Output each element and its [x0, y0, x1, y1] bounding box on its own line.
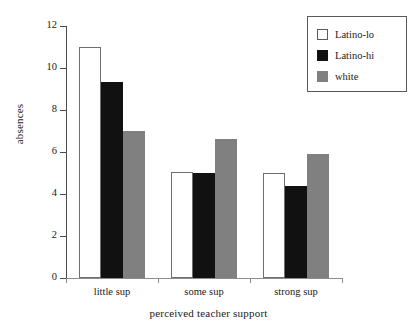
bar-chart-figure: absences 024681012 little supsome supstr…: [0, 0, 417, 331]
x-axis-tick: [66, 278, 67, 283]
x-axis-category-label: little sup: [94, 286, 130, 297]
legend-item[interactable]: Latino-hi: [317, 45, 406, 66]
x-axis-tick: [250, 278, 251, 283]
legend-item-label: Latino-lo: [335, 29, 374, 40]
bar-little-sup-white: [123, 131, 145, 278]
y-axis-tick-label: 10: [47, 61, 58, 72]
white-square-swatch: [317, 29, 328, 40]
y-axis-title: absences: [13, 84, 25, 164]
bar-little-sup-latino-lo: [79, 47, 101, 278]
bar-strong-sup-latino-lo: [263, 173, 285, 278]
x-axis-line: [66, 278, 343, 279]
x-axis-tick: [158, 278, 159, 283]
y-axis-tick-label: 4: [52, 187, 57, 198]
x-axis-category-label: strong sup: [274, 286, 317, 297]
x-axis-title: perceived teacher support: [0, 307, 417, 319]
legend-item[interactable]: Latino-lo: [317, 24, 406, 45]
legend-item-label: white: [335, 71, 358, 82]
legend-item[interactable]: white: [317, 66, 406, 87]
black-square-swatch: [317, 50, 328, 61]
bar-some-sup-white: [215, 139, 237, 278]
x-axis-tick: [342, 278, 343, 283]
y-axis-tick-label: 8: [52, 103, 57, 114]
y-axis-tick-label: 2: [52, 229, 57, 240]
y-axis-tick-label: 6: [52, 145, 57, 156]
gray-square-swatch: [317, 71, 328, 82]
bar-little-sup-latino-hi: [101, 82, 123, 278]
bar-strong-sup-white: [307, 154, 329, 278]
y-axis-tick-label: 12: [47, 19, 58, 30]
bar-strong-sup-latino-hi: [285, 186, 307, 278]
x-axis-category-label: some sup: [184, 286, 223, 297]
plot-area: [66, 26, 342, 278]
bar-some-sup-latino-hi: [193, 173, 215, 278]
y-axis-tick-label: 0: [52, 271, 57, 282]
bar-some-sup-latino-lo: [171, 172, 193, 278]
legend-item-label: Latino-hi: [335, 50, 374, 61]
chart-legend: Latino-loLatino-hiwhite: [307, 16, 407, 92]
